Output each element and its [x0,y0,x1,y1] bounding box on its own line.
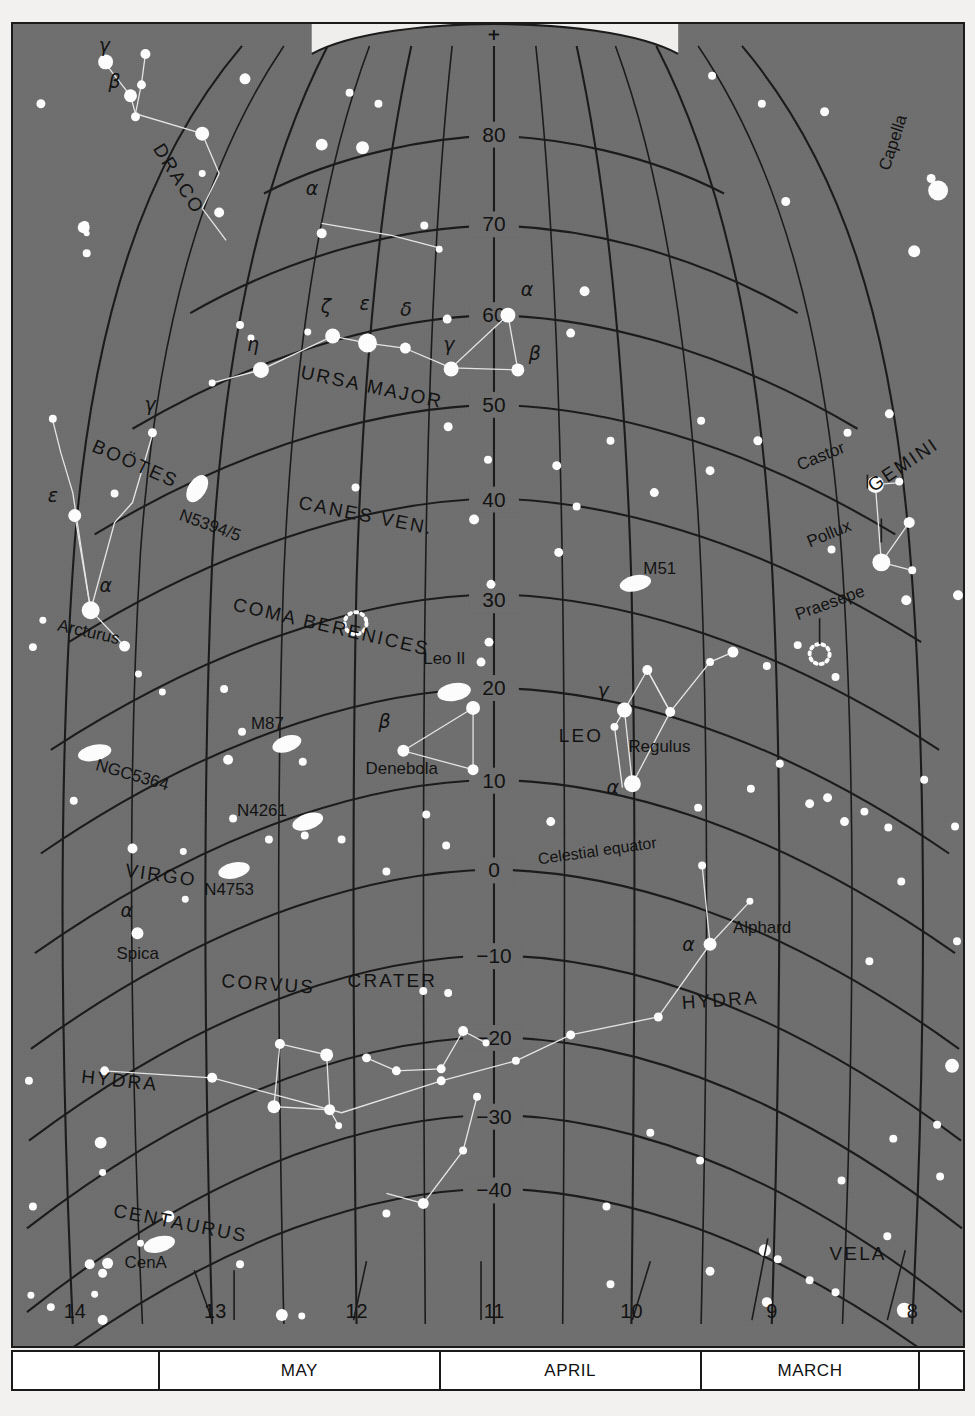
star [485,638,494,647]
label-leo: LEO [559,725,603,746]
star [124,89,137,102]
star [889,1135,897,1143]
star [199,170,206,177]
greek-uma-zeta: ζ [320,295,333,317]
greek-boo-gamma: γ [144,393,157,415]
star [694,804,702,812]
greek-uma-eta: η [247,333,259,355]
star [180,848,187,855]
star [747,785,755,793]
star [102,1258,113,1269]
month-cell-march: MARCH [702,1352,921,1389]
label-vela: VELA [830,1243,887,1264]
label-castor: Castor [794,438,848,474]
label-ursa-major: URSA MAJOR [299,361,445,412]
star [473,1093,481,1101]
star [933,1121,941,1129]
star [119,641,130,652]
star [68,509,81,522]
star [466,701,480,715]
star [267,1100,280,1113]
star [820,107,829,116]
star [573,503,581,511]
star [860,808,868,816]
star [953,590,963,600]
ra-tick-9: 9 [766,1300,777,1322]
greek-leo-beta: β [377,710,390,732]
label-n4753: N4753 [204,880,254,899]
star [47,1303,55,1311]
star [774,1255,782,1263]
greek-leo-alpha: α [607,776,620,798]
star [214,207,224,217]
star [806,1276,814,1284]
star [182,896,189,903]
star [746,898,753,905]
dec-label-m20: −20 [476,1026,511,1049]
month-cell-may: MAY [160,1352,440,1389]
star [444,422,453,431]
label-leo-ii: Leo II [423,649,465,668]
star [897,877,905,885]
star [418,1198,429,1209]
greek-uma-gamma: γ [443,333,456,355]
star [936,1173,944,1181]
star [566,1030,575,1039]
star [49,415,57,423]
greek-draco-beta: β [108,70,121,92]
dec-label-40: 40 [482,488,505,511]
star [753,436,762,445]
galaxy-n4753 [217,859,251,881]
star [362,1053,371,1062]
dec-label-m10: −10 [476,944,511,967]
greek-uma-alpha-top: α [306,177,319,199]
star-alphard [704,938,717,951]
star [500,308,515,323]
star [823,793,832,802]
month-label: MARCH [778,1361,843,1381]
star [422,811,430,819]
dec-label-m40: −40 [476,1178,511,1201]
ra-axis-labels: 14 13 12 11 10 9 8 [64,1300,918,1322]
star [566,329,575,338]
greek-boo-epsilon: ε [48,484,58,506]
galaxy-n5394 [182,471,213,506]
star [603,1202,611,1210]
cluster-praesepe [810,644,830,664]
ra-tick-11: 11 [484,1300,505,1322]
star [25,1077,33,1085]
star [111,490,119,498]
label-m87: M87 [251,714,284,733]
star [444,361,459,376]
star [883,1232,891,1240]
deep-sky-labels: N5394/5 M51 Leo II M87 NGC5364 N4261 N47… [94,505,677,1272]
star [708,72,716,80]
star [706,466,715,475]
star [654,1013,663,1022]
star [29,1202,37,1210]
star [436,246,443,253]
star [265,836,273,844]
star [223,755,233,765]
star [838,1177,846,1185]
star [546,817,555,826]
label-denebola: Denebola [366,759,439,778]
star [95,1137,107,1149]
star [70,797,78,805]
star [610,723,618,731]
star [706,658,714,666]
label-arcturus: Arcturus [56,616,122,649]
star [487,580,496,589]
dec-label-0: 0 [488,858,500,881]
star [706,1267,715,1276]
star [697,417,705,425]
star [420,221,428,229]
label-n5394: N5394/5 [177,505,244,545]
star [459,1147,467,1155]
greek-uma-alpha: α [521,278,534,300]
sky-chart-frame: + 80 70 60 50 40 30 20 10 0 −10 −20 −30 … [11,22,965,1348]
star [320,1048,333,1061]
label-spica: Spica [117,944,160,963]
star [236,1260,244,1268]
ra-tick-12: 12 [345,1300,367,1322]
